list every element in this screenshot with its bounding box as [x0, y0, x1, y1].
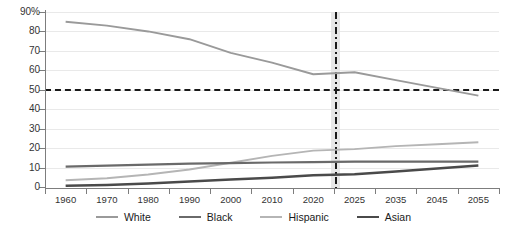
series-layer	[0, 0, 507, 234]
legend-item[interactable]: Hispanic	[260, 212, 328, 223]
series-line-white	[66, 22, 479, 96]
chart-legend: WhiteBlackHispanicAsian	[0, 206, 507, 228]
legend-label: Hispanic	[288, 212, 328, 223]
legend-swatch-icon	[96, 216, 118, 218]
series-line-black	[66, 162, 479, 167]
legend-label: Black	[207, 212, 233, 223]
legend-swatch-icon	[179, 216, 201, 218]
chart-container: 90% 80 70 60 50 40 30 20 10 0 1960197019…	[0, 0, 507, 234]
legend-item[interactable]: White	[96, 212, 151, 223]
legend-label: Asian	[385, 212, 411, 223]
legend-label: White	[124, 212, 151, 223]
legend-swatch-icon	[260, 216, 282, 218]
legend-swatch-icon	[357, 216, 379, 218]
legend-item[interactable]: Black	[179, 212, 233, 223]
legend-item[interactable]: Asian	[357, 212, 411, 223]
